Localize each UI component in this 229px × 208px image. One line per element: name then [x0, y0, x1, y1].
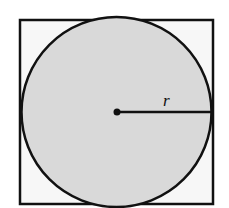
- radius-label: r: [163, 91, 170, 110]
- inscribed-circle-diagram: r: [0, 0, 229, 208]
- center-point: [114, 109, 121, 116]
